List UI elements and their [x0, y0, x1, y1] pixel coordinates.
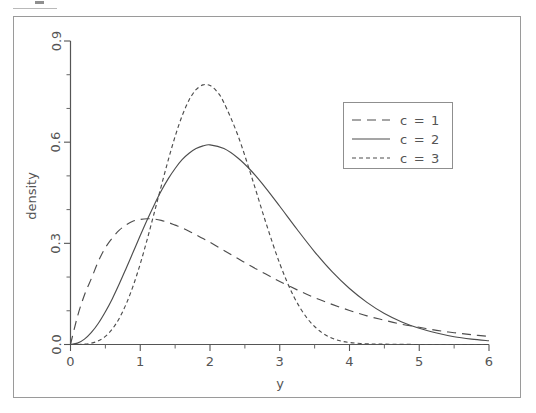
x-axis-title: y: [276, 376, 284, 391]
x-tick-label: 3: [276, 354, 284, 369]
x-tick-label: 1: [136, 354, 144, 369]
y-tick-label: 0.3: [49, 233, 64, 254]
top-edge-artifact: [13, 1, 57, 9]
x-tick-label: 2: [206, 354, 214, 369]
x-tick-label: 6: [485, 354, 493, 369]
figure-canvas: 0.00.30.60.9 density 0123456 y c = 1c = …: [0, 0, 536, 413]
x-tick-label: 0: [66, 354, 74, 369]
top-edge-artifact-bar: [35, 1, 44, 4]
y-axis-title: density: [24, 172, 39, 220]
plot-frame: [14, 17, 521, 398]
legend-label-3: c = 3: [400, 151, 441, 166]
x-tick-label: 4: [345, 354, 353, 369]
legend: c = 1c = 2c = 3: [344, 103, 453, 169]
x-tick-label: 5: [415, 354, 423, 369]
y-tick-label: 0.9: [49, 31, 64, 52]
density-plot: 0.00.30.60.9 density 0123456 y c = 1c = …: [0, 0, 536, 413]
legend-label-1: c = 1: [400, 113, 441, 128]
y-tick-label: 0.6: [49, 132, 64, 153]
y-tick-label: 0.0: [49, 334, 64, 355]
legend-label-2: c = 2: [400, 132, 441, 147]
